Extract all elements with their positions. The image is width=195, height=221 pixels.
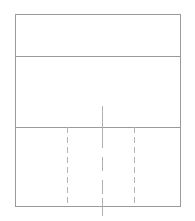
figure-container (0, 0, 195, 221)
line-drawing-svg (0, 0, 195, 221)
outer-rectangle (16, 15, 181, 207)
